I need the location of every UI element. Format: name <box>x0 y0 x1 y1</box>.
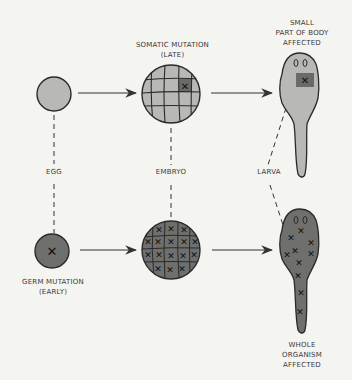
svg-text:✕: ✕ <box>166 265 174 275</box>
svg-text:✕: ✕ <box>297 226 305 236</box>
svg-text:✕: ✕ <box>155 250 163 260</box>
svg-text:✕: ✕ <box>291 246 299 256</box>
egg-label: EGG <box>40 167 68 177</box>
svg-text:✕: ✕ <box>155 225 163 235</box>
svg-text:✕: ✕ <box>167 224 175 234</box>
somatic-mutation-label: SOMATIC MUTATION (LATE) <box>125 40 220 60</box>
mutation-x-icon: ✕ <box>47 244 58 259</box>
larva-somatic: ✕ <box>280 53 319 177</box>
small-part-affected-label: SMALL PART OF BODY AFFECTED <box>262 18 342 48</box>
svg-text:✕: ✕ <box>295 258 303 268</box>
svg-text:✕: ✕ <box>283 250 291 260</box>
germ-mutation-label: GERM MUTATION (EARLY) <box>8 277 98 297</box>
svg-text:✕: ✕ <box>144 250 152 260</box>
embryo-germ: ✕✕✕ ✕✕✕✕✕ ✕✕✕✕✕ ✕✕✕ <box>142 221 200 279</box>
svg-text:✕: ✕ <box>307 249 315 259</box>
svg-text:✕: ✕ <box>180 237 188 247</box>
svg-text:✕: ✕ <box>179 251 187 261</box>
mutation-x-icon: ✕ <box>181 81 189 92</box>
svg-text:✕: ✕ <box>307 238 315 248</box>
svg-text:✕: ✕ <box>180 225 188 235</box>
svg-text:✕: ✕ <box>190 250 198 260</box>
embryo-somatic: ✕ <box>142 65 200 123</box>
embryo-label: EMBRYO <box>150 167 192 177</box>
mutation-x-icon: ✕ <box>301 75 309 86</box>
egg-germ-mutation: ✕ <box>35 234 69 268</box>
svg-text:✕: ✕ <box>154 237 162 247</box>
svg-text:✕: ✕ <box>144 237 152 247</box>
svg-text:✕: ✕ <box>294 271 302 281</box>
larva-germ: ✕ ✕✕ ✕✕ ✕ ✕ ✕ ✕ ✕ <box>280 209 319 333</box>
svg-text:✕: ✕ <box>178 264 186 274</box>
svg-text:✕: ✕ <box>191 237 199 247</box>
svg-text:✕: ✕ <box>154 264 162 274</box>
larva-label: LARVA <box>252 167 286 177</box>
svg-text:✕: ✕ <box>287 233 295 243</box>
whole-organism-affected-label: WHOLE ORGANISM AFFECTED <box>270 340 334 370</box>
egg-normal <box>37 77 71 111</box>
svg-text:✕: ✕ <box>167 237 175 247</box>
svg-text:✕: ✕ <box>296 307 304 317</box>
svg-text:✕: ✕ <box>167 251 175 261</box>
svg-text:✕: ✕ <box>297 288 305 298</box>
